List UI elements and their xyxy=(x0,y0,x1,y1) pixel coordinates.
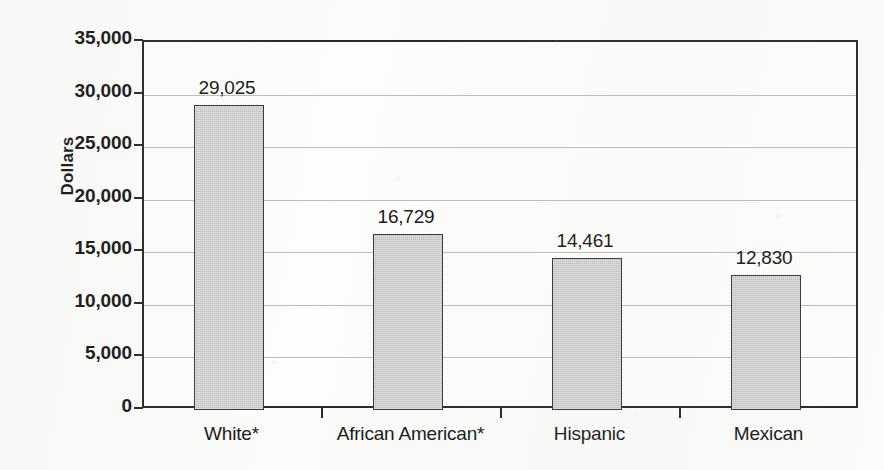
x-axis-category-label: Mexican xyxy=(669,423,869,445)
x-axis-tick xyxy=(321,408,323,418)
y-axis-tick-label: 0 xyxy=(22,395,132,417)
bar xyxy=(552,258,622,410)
bar-chart-figure: Dollars 05,00010,00015,00020,00025,00030… xyxy=(0,0,884,470)
bar-value-label: 14,461 xyxy=(525,230,645,252)
y-axis-tick-label: 15,000 xyxy=(22,237,132,259)
y-axis-tick-label: 35,000 xyxy=(22,27,132,49)
bar xyxy=(731,275,801,410)
x-axis-category-label: Hispanic xyxy=(490,423,690,445)
x-axis-tick xyxy=(679,408,681,418)
bar xyxy=(194,105,264,410)
y-axis-tick-label: 10,000 xyxy=(22,290,132,312)
x-axis-tick xyxy=(500,408,502,418)
y-axis-title: Dollars xyxy=(58,106,78,226)
y-axis-tick-label: 5,000 xyxy=(22,342,132,364)
bar-value-label: 16,729 xyxy=(346,206,466,228)
bar xyxy=(373,234,443,410)
y-axis-tick-label: 25,000 xyxy=(22,132,132,154)
bar-value-label: 12,830 xyxy=(704,247,824,269)
y-axis-tick-label: 30,000 xyxy=(22,80,132,102)
x-axis-category-label: White* xyxy=(132,423,332,445)
y-axis-tick-label: 20,000 xyxy=(22,185,132,207)
bar-value-label: 29,025 xyxy=(167,77,287,99)
x-axis-category-label: African American* xyxy=(311,423,511,445)
